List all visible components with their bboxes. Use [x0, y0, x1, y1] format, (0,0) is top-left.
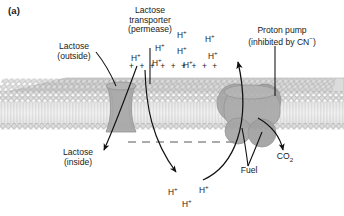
proton-ion-outside-4: H+ [177, 45, 187, 56]
proton-charge: + [183, 44, 187, 51]
proton-ion-outside-1: H+ [205, 33, 215, 44]
lactose-outside-label: Lactose (outside) [44, 42, 104, 61]
proton-charge: + [205, 183, 209, 190]
co2-subscript: 2 [290, 156, 293, 163]
lactose-outside-line2: (outside) [44, 52, 104, 62]
proton-pump-line2: (inhibited by CN−) [224, 36, 340, 47]
co2-label: CO2 [272, 152, 298, 164]
proton-charge: + [161, 41, 165, 48]
panel-label: (a) [8, 6, 20, 17]
fuel-arrow-branch [248, 132, 262, 166]
figure-panel: (a) Lactose transporter (permease) Lacto… [0, 0, 344, 216]
proton-ion-inside-2: H+ [182, 198, 192, 209]
lactose-inside-label: Lactose (inside) [48, 148, 108, 167]
proton-charge: + [214, 49, 218, 56]
outer-positive-charge-row: + + + + + + + + + [129, 62, 219, 71]
fuel-label: Fuel [232, 166, 266, 176]
proton-ion-outside-2: H+ [155, 42, 165, 53]
proton-charge: + [137, 51, 141, 58]
proton-charge: + [211, 32, 215, 39]
proton-pump-line2-text: (inhibited by CN [248, 36, 309, 46]
fuel-arrow [242, 128, 248, 166]
proton-ion-outside-0: H+ [177, 29, 187, 40]
proton-ion-inside-0: H+ [168, 186, 178, 197]
proton-charge: + [183, 28, 187, 35]
proton-pump-label: Proton pump (inhibited by CN−) [224, 26, 340, 47]
proton-influx-arrow [145, 70, 176, 172]
co2-text: CO [277, 151, 290, 161]
proton-ion-inside-1: H+ [199, 184, 209, 195]
lactose-inside-line2: (inside) [48, 158, 108, 168]
proton-pump-line1: Proton pump [224, 26, 340, 36]
proton-charge: + [188, 197, 192, 204]
proton-ion-outside-5: H+ [208, 50, 218, 61]
lactose-entry-arrow [104, 66, 137, 150]
proton-charge: + [174, 185, 178, 192]
proton-pump-line2-end: ) [313, 36, 316, 46]
proton-efflux-arrow [203, 62, 243, 180]
